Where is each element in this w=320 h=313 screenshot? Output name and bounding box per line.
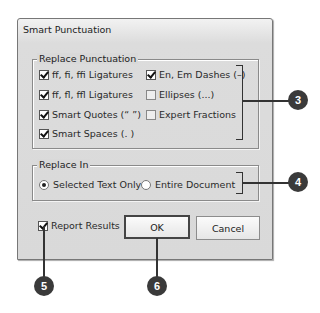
replace-in-group: Replace In Selected Text Only Entire Doc… <box>32 165 259 201</box>
callout-badge-5: 5 <box>34 276 54 296</box>
callout-line-3 <box>243 100 289 102</box>
callout-line-4 <box>243 182 289 184</box>
callout-badge-3: 3 <box>288 90 308 110</box>
checkbox-checked-icon <box>39 110 49 120</box>
checkbox-checked-icon <box>39 90 49 100</box>
callout-line-5 <box>43 226 45 278</box>
replace-punctuation-group: Replace Punctuation ff, fi, ffi Ligature… <box>32 59 259 149</box>
checkbox-unchecked-icon <box>146 110 156 120</box>
checkbox-checked-icon <box>39 70 49 80</box>
checkbox-smart-quotes[interactable]: Smart Quotes (“ ”) <box>39 109 141 120</box>
cancel-button[interactable]: Cancel <box>196 216 260 240</box>
callout-badge-6: 6 <box>147 276 167 296</box>
callout-bracket-4 <box>236 172 243 194</box>
callout-line-6 <box>156 238 158 278</box>
checkbox-checked-icon <box>39 129 49 139</box>
checkbox-ellipses[interactable]: Ellipses (...) <box>146 89 214 100</box>
radio-selected-icon <box>39 180 49 190</box>
ok-button[interactable]: OK <box>124 215 190 239</box>
radio-entire-document[interactable]: Entire Document <box>141 179 235 190</box>
replace-punctuation-legend: Replace Punctuation <box>37 53 138 64</box>
checkbox-report-results[interactable]: Report Results <box>38 220 120 231</box>
radio-unselected-icon <box>141 180 151 190</box>
callout-bracket-3 <box>236 65 243 140</box>
checkbox-expert-fractions[interactable]: Expert Fractions <box>146 109 236 120</box>
checkbox-smart-spaces[interactable]: Smart Spaces (. ) <box>39 128 134 139</box>
replace-in-legend: Replace In <box>37 159 90 170</box>
callout-badge-4: 4 <box>288 172 308 192</box>
checkbox-unchecked-icon <box>146 90 156 100</box>
radio-selected-text-only[interactable]: Selected Text Only <box>39 179 141 190</box>
smart-punctuation-dialog: Smart Punctuation Replace Punctuation ff… <box>17 18 273 260</box>
checkbox-ff-fl-ffl-ligatures[interactable]: ff, fl, ffl Ligatures <box>39 89 133 100</box>
checkbox-checked-icon <box>146 70 156 80</box>
checkbox-en-em-dashes[interactable]: En, Em Dashes (–) <box>146 69 245 80</box>
checkbox-ff-fi-ffi-ligatures[interactable]: ff, fi, ffi Ligatures <box>39 69 133 80</box>
dialog-title: Smart Punctuation <box>23 24 111 35</box>
